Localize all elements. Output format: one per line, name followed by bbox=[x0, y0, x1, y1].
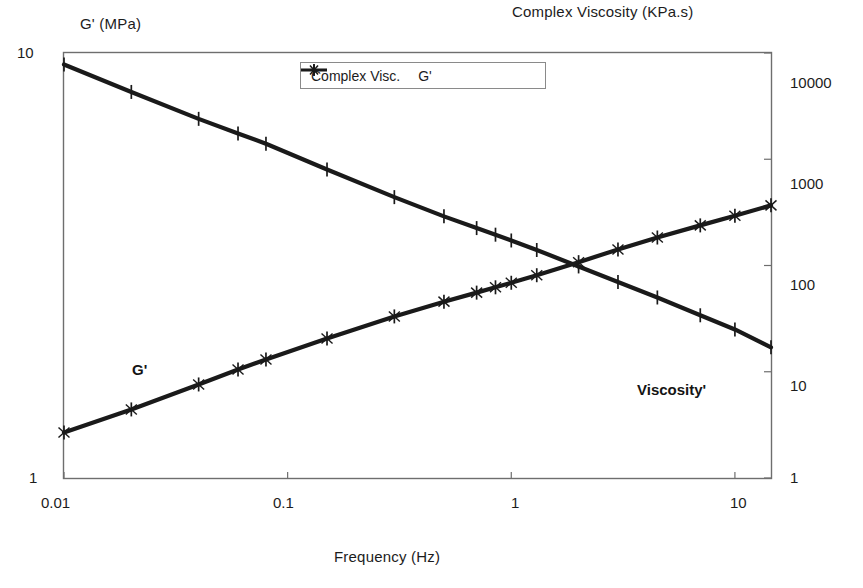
x-tick-label: 0.1 bbox=[273, 494, 294, 511]
y-right-tick-label: 10 bbox=[790, 377, 807, 394]
chart-figure: G' (MPa) Complex Viscosity (KPa.s) Frequ… bbox=[0, 0, 863, 588]
x-tick-label: 10 bbox=[730, 494, 747, 511]
legend: Complex Visc. G' bbox=[300, 62, 546, 89]
annotation-g-prime: G' bbox=[132, 361, 147, 378]
legend-entry-g-prime: G' bbox=[418, 68, 432, 84]
x-tick-label: 1 bbox=[511, 494, 519, 511]
x-tick-label: 0.01 bbox=[41, 494, 70, 511]
y-right-tick-label: 1000 bbox=[790, 175, 823, 192]
right-axis-tick-marks bbox=[764, 53, 771, 478]
y-left-tick-label: 10 bbox=[17, 44, 34, 61]
series-g bbox=[59, 198, 777, 439]
y-right-tick-label: 100 bbox=[790, 276, 815, 293]
legend-label: G' bbox=[418, 68, 432, 84]
y-right-tick-label: 1 bbox=[790, 469, 798, 486]
y-left-tick-label: 1 bbox=[29, 469, 37, 486]
plot-frame bbox=[64, 53, 772, 479]
y-right-tick-label: 10000 bbox=[790, 74, 832, 91]
x-axis-tick-marks bbox=[64, 472, 735, 478]
annotation-viscosity: Viscosity' bbox=[637, 381, 706, 398]
star-marker-icon bbox=[301, 63, 327, 77]
